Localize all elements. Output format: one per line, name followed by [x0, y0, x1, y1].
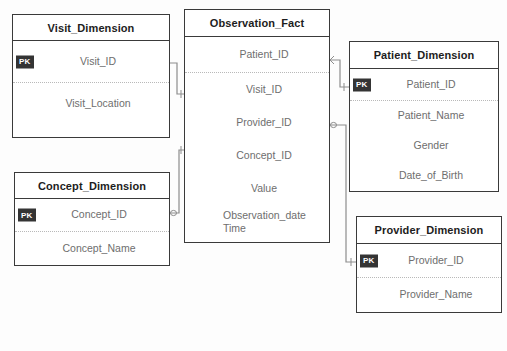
field-row[interactable]: PK Concept_ID: [15, 199, 169, 232]
entity-fields-provider-dimension: PK Provider_ID Provider_Name: [357, 244, 501, 312]
field-row[interactable]: Patient_ID: [185, 37, 329, 73]
entity-observation-fact[interactable]: Observation_Fact Patient_ID Visit_ID Pro…: [184, 9, 330, 243]
primary-key-badge: PK: [16, 55, 34, 68]
entity-title-patient-dimension: Patient_Dimension: [350, 42, 498, 69]
field-label: Visit_ID: [13, 55, 169, 68]
field-row[interactable]: Visit_ID: [185, 73, 329, 106]
field-label: Concept_ID: [15, 208, 169, 221]
field-label: Patient_ID: [350, 78, 498, 91]
entity-title-provider-dimension: Provider_Dimension: [357, 217, 501, 244]
entity-visit-dimension[interactable]: Visit_Dimension PK Visit_ID Visit_Locati…: [12, 14, 170, 138]
entity-fields-patient-dimension: PK Patient_ID Patient_Name Gender Date_o…: [350, 69, 498, 191]
field-row[interactable]: PK Provider_ID: [357, 244, 501, 278]
entity-provider-dimension[interactable]: Provider_Dimension PK Provider_ID Provid…: [356, 216, 502, 313]
primary-key-badge: PK: [18, 209, 36, 222]
field-row[interactable]: Date_of_Birth: [350, 161, 498, 191]
field-row[interactable]: PK Visit_ID: [13, 41, 169, 83]
field-row[interactable]: PK Patient_ID: [350, 69, 498, 101]
entity-patient-dimension[interactable]: Patient_Dimension PK Patient_ID Patient_…: [349, 41, 499, 192]
entity-concept-dimension[interactable]: Concept_Dimension PK Concept_ID Concept_…: [14, 172, 170, 266]
field-label: Gender: [350, 139, 498, 152]
entity-title-concept-dimension: Concept_Dimension: [15, 173, 169, 199]
field-row[interactable]: Provider_ID: [185, 106, 329, 139]
connector-concept-observation: [170, 146, 184, 216]
connector-observation-patient: [330, 56, 349, 91]
entity-fields-observation-fact: Patient_ID Visit_ID Provider_ID Concept_…: [185, 37, 329, 242]
field-row[interactable]: Visit_Location: [13, 83, 169, 125]
field-label: Provider_Name: [357, 288, 501, 301]
er-diagram-canvas: Visit_Dimension PK Visit_ID Visit_Locati…: [0, 0, 507, 351]
field-label: Visit_ID: [185, 83, 329, 96]
field-label: Concept_Name: [15, 242, 169, 255]
primary-key-badge: PK: [360, 254, 378, 267]
field-label: Patient_Name: [350, 109, 498, 122]
field-label: Provider_ID: [185, 116, 329, 129]
entity-fields-visit-dimension: PK Visit_ID Visit_Location: [13, 41, 169, 137]
field-label: Observation_date Time: [185, 209, 329, 235]
field-row[interactable]: Concept_ID: [185, 139, 329, 172]
field-label: Patient_ID: [185, 48, 329, 61]
field-row[interactable]: Value: [185, 172, 329, 205]
field-label: Value: [185, 182, 329, 195]
field-row[interactable]: Gender: [350, 131, 498, 161]
entity-title-visit-dimension: Visit_Dimension: [13, 15, 169, 41]
field-row[interactable]: Observation_date Time: [185, 205, 329, 242]
field-row[interactable]: Concept_Name: [15, 232, 169, 265]
entity-fields-concept-dimension: PK Concept_ID Concept_Name: [15, 199, 169, 265]
field-label: Visit_Location: [13, 97, 169, 110]
entity-title-observation-fact: Observation_Fact: [185, 10, 329, 37]
field-row[interactable]: Patient_Name: [350, 101, 498, 131]
field-row[interactable]: Provider_Name: [357, 278, 501, 312]
field-label: Provider_ID: [357, 254, 501, 267]
field-label: Concept_ID: [185, 149, 329, 162]
field-label: Date_of_Birth: [350, 169, 498, 182]
primary-key-badge: PK: [353, 78, 371, 91]
